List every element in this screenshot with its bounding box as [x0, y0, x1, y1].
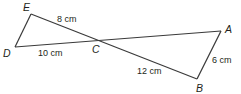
vertex-label-E: E — [23, 1, 31, 13]
measurement-CB: 12 cm — [137, 66, 162, 76]
segment-DA — [15, 31, 221, 47]
vertex-label-A: A — [224, 23, 232, 35]
vertex-label-C: C — [92, 43, 100, 55]
geometry-diagram: E D C A B 8 cm 10 cm 12 cm 6 cm — [0, 0, 241, 94]
measurement-DC: 10 cm — [38, 48, 63, 58]
segment-DE — [15, 14, 31, 47]
measurement-AB: 6 cm — [212, 55, 232, 65]
vertex-label-D: D — [3, 47, 11, 59]
segment-EB — [31, 14, 197, 79]
vertex-label-B: B — [196, 82, 203, 94]
measurement-EC: 8 cm — [57, 14, 77, 24]
